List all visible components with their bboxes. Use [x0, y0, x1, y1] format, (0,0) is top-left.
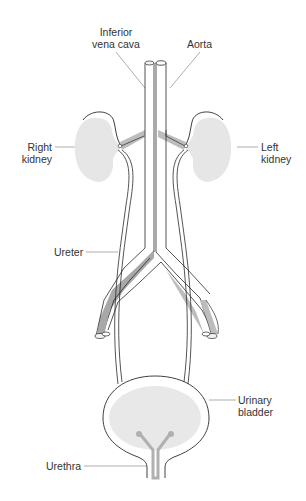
label-ureter-line1: Ureter [54, 246, 83, 258]
label-left-kidney-line1: Left [261, 141, 291, 153]
label-right-kidney: Right kidney [14, 141, 52, 165]
label-bladder-line2: bladder [238, 406, 273, 418]
label-inferior-vena-cava: Inferior vena cava [92, 26, 140, 50]
label-ivc-line1: Inferior [92, 26, 140, 38]
right-kidney [75, 112, 121, 182]
label-right-kidney-line2: kidney [14, 153, 52, 165]
label-aorta-line1: Aorta [187, 38, 212, 50]
label-urethra: Urethra [46, 460, 81, 472]
leader-aorta [170, 52, 200, 88]
label-urinary-bladder: Urinary bladder [238, 394, 273, 418]
urinary-bladder [103, 376, 209, 478]
label-ivc-line2: vena cava [92, 38, 140, 50]
label-left-kidney-line2: kidney [261, 153, 291, 165]
label-ureter: Ureter [54, 246, 83, 258]
renal-vessels [118, 130, 188, 150]
ureters [115, 150, 192, 384]
label-right-kidney-line1: Right [14, 141, 52, 153]
iliac-vessels [95, 300, 218, 339]
urinary-system-diagram [0, 0, 306, 501]
label-urethra-line1: Urethra [46, 460, 81, 472]
leader-ivc [116, 52, 145, 88]
label-bladder-line1: Urinary [238, 394, 273, 406]
label-aorta: Aorta [187, 38, 212, 50]
left-kidney [185, 112, 231, 182]
label-left-kidney: Left kidney [261, 141, 291, 165]
